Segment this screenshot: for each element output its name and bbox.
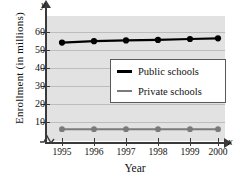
legend-item-private-schools: Private schools (111, 81, 225, 101)
data-point (155, 37, 161, 43)
data-point (215, 35, 221, 41)
data-point (91, 126, 97, 132)
series-line-public-schools (62, 38, 218, 42)
legend-label-private-schools: Private schools (138, 86, 202, 97)
chart-legend: Public schools Private schools (110, 59, 226, 103)
data-point (59, 40, 65, 46)
legend-item-public-schools: Public schools (111, 61, 225, 81)
data-point (215, 126, 221, 132)
data-point (155, 126, 161, 132)
data-point (123, 126, 129, 132)
data-point (123, 37, 129, 43)
legend-label-public-schools: Public schools (138, 66, 199, 77)
data-point (187, 36, 193, 42)
legend-swatch-private-schools (117, 90, 132, 92)
data-point (59, 126, 65, 132)
data-point (187, 126, 193, 132)
data-point (91, 38, 97, 44)
legend-swatch-public-schools (117, 70, 132, 73)
enrollment-line-chart: y x Enrollment (in millions) Year 10 20 … (0, 0, 240, 181)
